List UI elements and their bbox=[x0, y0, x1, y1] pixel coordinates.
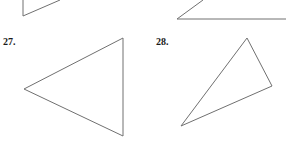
triangle-28 bbox=[181, 38, 272, 126]
triangle-27 bbox=[24, 38, 123, 136]
problem-label-28: 28. bbox=[156, 37, 169, 47]
figures-canvas bbox=[0, 0, 286, 141]
partial-triangle-right bbox=[177, 0, 286, 19]
partial-triangle-left bbox=[23, 0, 60, 16]
problem-label-27: 27. bbox=[3, 37, 16, 47]
